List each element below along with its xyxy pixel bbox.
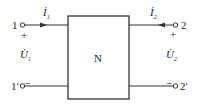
- terminal-2: [173, 23, 177, 27]
- voltage-label-2: U̇2: [166, 49, 177, 62]
- terminal-label-2: 2: [181, 20, 187, 31]
- voltage-label-1: U̇1: [20, 49, 31, 62]
- minus-sign-2: −: [166, 78, 172, 89]
- current-label-1: İ1: [43, 7, 50, 20]
- network-label: N: [94, 53, 102, 64]
- terminal-label-1: 1: [12, 20, 18, 31]
- current-arrow-1-icon: [40, 23, 47, 28]
- minus-sign-1: −: [24, 78, 30, 89]
- terminal-1: [20, 23, 24, 27]
- current-arrow-2-icon: [158, 23, 165, 28]
- plus-sign-2: +: [170, 29, 176, 40]
- current-label-2: İ2: [150, 7, 157, 20]
- terminal-label-1prime: 1′: [11, 81, 19, 92]
- terminal-label-2prime: 2′: [180, 81, 188, 92]
- plus-sign-1: +: [21, 30, 27, 41]
- terminal-2prime: [173, 84, 177, 88]
